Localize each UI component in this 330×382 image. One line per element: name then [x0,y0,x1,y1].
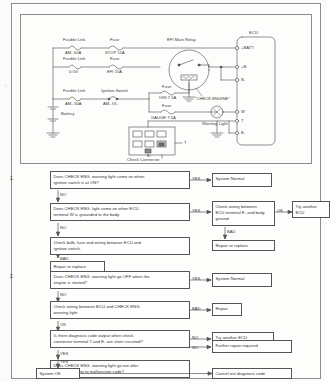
fusible-link-05g-type: Fusible Link [63,56,85,61]
scan-artifact [5,83,6,88]
fuse-ign-type: Fuse [162,84,171,89]
fuse-gauge-value: GAUGE 7.5A [151,115,176,120]
ecu-label: ECU [249,30,258,35]
branch-label-no: NO [60,292,66,297]
flow-box-s1-r2: Check wiring between ECU terminal E₁ and… [212,201,275,226]
fusible-link-05g-value: 0.5G [69,69,78,74]
fuse-efi-type: Fuse [110,56,119,61]
flow-box-s2-r1: System Normal [212,273,272,287]
branch-label-yes: YES [192,276,200,281]
section-number-1: 1. [10,176,14,181]
flow-text: engine is started? [54,280,188,286]
check-engine-label: "CHECK ENGINE" [195,96,230,101]
flow-box-s1-r3: Try another ECU [292,201,330,218]
ecu-terminal-t: T [241,118,244,123]
fuse-stop-value: STOP 15A [105,50,125,55]
flow-text: System Normal [216,276,270,282]
flow-text: ground. [216,216,273,222]
connector-terminal-e1-label: E₁ [147,153,151,158]
flow-box-s2-r4: Further repair required [212,340,292,353]
ignition-switch-terminals: AM₂ IG₁ [103,101,118,106]
ecu-terminal-b1: B₁ [241,77,245,82]
branch-label-yes: YES [60,359,68,364]
fusible-link-am2-type: Fusible Link [63,88,85,93]
branch-label-no: NO [60,192,66,197]
ecu-terminal-b: +B [241,64,246,69]
branch-label-no: NO [60,225,66,230]
flow-box-s2-q2: Check wiring between ECU and CHECK ENG. … [50,301,190,319]
flow-text: System Normal [216,176,270,182]
flow-box-s1-q3: Check bulb, fuse and wiring between ECU … [50,237,190,255]
battery-label: Battery [61,111,74,116]
flow-box-s1-r4: Repair or replace [212,240,275,251]
flow-box-s1-r1: System Normal [212,173,272,187]
wiring-diagram: Fusible Link AM₁ 60A Fuse STOP 15A Fusib… [20,14,312,164]
flow-box-s1-q1: Does CHECK ENG. warning light come on wh… [50,171,190,189]
check-connector-label: Check Connector [127,157,159,162]
flow-text: Repair [216,306,240,312]
flow-box-s2-r2: Repair [212,303,242,316]
flow-text: Repair or replace [54,264,103,270]
branch-label-yes: YES [192,208,200,213]
relay-label: EFI Main Relay [167,37,196,42]
branch-label-bad: BAD [192,306,201,311]
fuse-gauge-type: Fuse [162,103,171,108]
section-number-2: 2. [10,274,14,279]
branch-label-ok: OK [277,208,283,213]
connector-terminal-t-label: T [184,140,187,145]
branch-label-ok: OK [60,322,66,327]
flow-text: ignition switch. [54,246,188,252]
branch-label-bad: BAD [227,229,236,234]
flow-text: warning light. [54,310,188,316]
ecu-terminal-w: W [241,109,245,114]
fuse-efi-value: EFI 15A [107,69,122,74]
warning-light-label: Warning Light [202,121,228,126]
ecu-terminal-e1: E₁ [241,130,245,135]
flow-text: ignition switch is at ON? [54,180,188,186]
flow-box-s2-q1: Does CHECK ENG. warning light go OFF whe… [50,271,190,289]
flow-text: ECU [296,210,328,216]
ecu-terminal-batt: +BATT [241,45,254,50]
flow-text: terminal W is grounded to the body. [54,212,188,218]
branch-label-yes: YES [192,176,200,181]
flow-box-s1-q2: Does CHECK ENG. light come on when ECU t… [50,203,190,221]
fusible-link-am2-value: AM₂ 30A [65,101,82,106]
fusible-link-am1-type: Fusible Link [63,37,85,42]
fuse-stop-type: Fuse [110,37,119,42]
fusible-link-am1-value: AM₁ 60A [65,50,81,55]
fuse-ign-value: IGN 7.5A [159,95,176,100]
ignition-switch-label: Ignition Switch [101,88,128,93]
flow-text: Repair or replace [216,243,273,249]
flow-text: Further repair required [216,343,290,349]
flowchart-bottom-link [0,368,327,382]
